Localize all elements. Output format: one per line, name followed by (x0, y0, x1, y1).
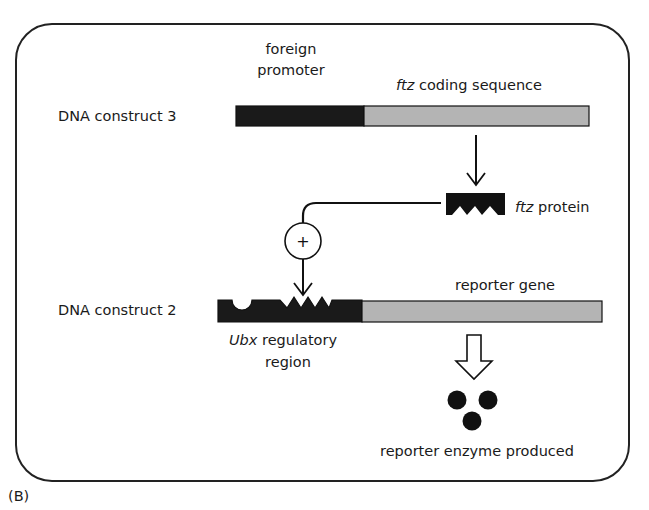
activation-plus-icon: + (285, 223, 321, 259)
diagram-canvas: DNA construct 3 foreign promoter ftz cod… (0, 0, 649, 510)
binding-connector-line (303, 203, 441, 224)
expression-arrow (467, 135, 485, 185)
ftz-gene-name: ftz (396, 77, 415, 93)
reporter-gene-segment (362, 301, 602, 322)
svg-text:+: + (296, 232, 309, 251)
coding-sequence-label: ftz coding sequence (396, 77, 542, 93)
construct2-bar (218, 297, 602, 322)
promoter-label-line2: promoter (257, 62, 324, 78)
reporter-enzyme-label: reporter enzyme produced (380, 443, 574, 459)
ubx-regulatory-label-line1: Ubx regulatory (229, 332, 337, 348)
ubx-regulatory-segment (218, 297, 362, 322)
promoter-label-line1: foreign (266, 41, 317, 57)
reporter-gene-label: reporter gene (455, 277, 555, 293)
reporter-enzyme-icon (448, 391, 498, 431)
ftz-protein-label: ftz protein (515, 199, 590, 215)
ftz-coding-segment (364, 106, 589, 126)
construct3-label: DNA construct 3 (58, 108, 176, 124)
construct3-bar (236, 106, 589, 126)
ubx-regulatory-label-line2: region (265, 354, 311, 370)
activation-arrow (294, 259, 312, 295)
production-block-arrow-icon (456, 335, 492, 379)
panel-label: (B) (8, 488, 29, 504)
construct2-label: DNA construct 2 (58, 302, 176, 318)
ftz-protein-icon (446, 193, 505, 215)
foreign-promoter-segment (236, 106, 364, 126)
